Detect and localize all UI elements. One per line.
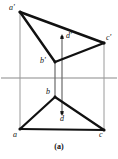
vertex-a-prime-dot <box>18 10 21 13</box>
projection-figure: a' b' c' d' a b c d (a) <box>0 0 118 159</box>
label-b: b <box>46 88 50 96</box>
edge-a-c <box>20 129 104 130</box>
label-c: c <box>99 131 103 139</box>
label-d-prime: d' <box>66 32 72 40</box>
label-c-prime: c' <box>106 34 111 42</box>
label-b-prime: b' <box>40 57 46 65</box>
vertex-d-prime-dot <box>61 36 64 39</box>
vertex-b-dot <box>54 96 57 99</box>
edge-a-b <box>20 97 55 129</box>
vertex-b-prime-dot <box>54 61 57 64</box>
label-a-prime: a' <box>9 4 15 12</box>
vertex-a-dot <box>18 127 21 130</box>
label-d: d <box>60 115 64 123</box>
label-a: a <box>13 131 17 139</box>
figure-caption: (a) <box>0 142 118 151</box>
